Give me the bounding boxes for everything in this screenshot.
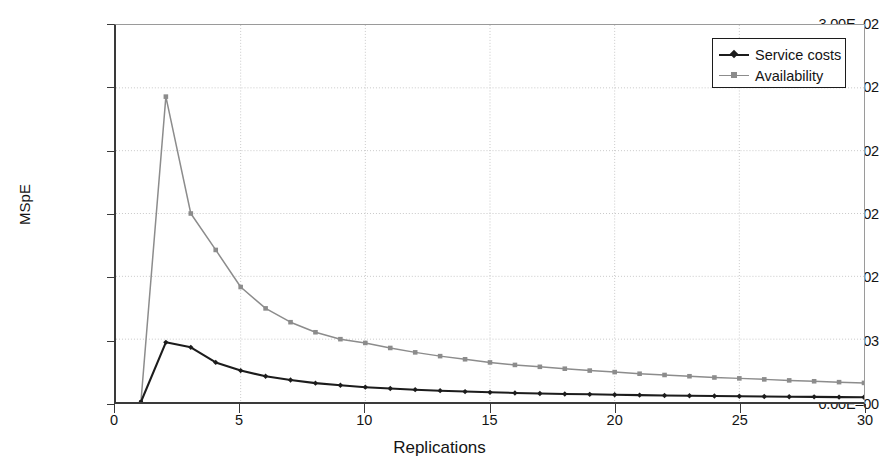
x-axis-tick-label: 20 — [595, 412, 635, 428]
x-axis-title: Replications — [0, 438, 879, 458]
x-axis-tick-mark — [865, 404, 866, 413]
x-axis-tick-mark — [114, 404, 115, 413]
x-axis-tick-label: 30 — [845, 412, 884, 428]
legend-label-service-costs: Service costs — [755, 47, 841, 63]
x-axis-tick-label: 0 — [94, 412, 134, 428]
y-axis-title: MSpE — [16, 165, 33, 245]
legend-label-availability: Availability — [755, 68, 823, 84]
legend-item-service-costs: Service costs — [719, 44, 839, 65]
x-axis-tick-label: 5 — [219, 412, 259, 428]
series-availability — [139, 94, 864, 402]
x-axis-tick-mark — [740, 404, 741, 413]
x-axis-tick-mark — [490, 404, 491, 413]
legend-swatch-service-costs — [719, 49, 749, 61]
x-axis-tick-mark — [364, 404, 365, 413]
series-service-costs — [139, 340, 864, 402]
legend-swatch-availability — [719, 70, 749, 82]
x-axis-tick-mark — [615, 404, 616, 413]
legend-item-availability: Availability — [719, 65, 839, 86]
x-axis-tick-label: 25 — [720, 412, 760, 428]
x-axis-tick-label: 15 — [470, 412, 510, 428]
chart-legend: Service costs Availability — [712, 38, 846, 88]
x-axis-tick-mark — [239, 404, 240, 413]
x-axis-tick-label: 10 — [344, 412, 384, 428]
